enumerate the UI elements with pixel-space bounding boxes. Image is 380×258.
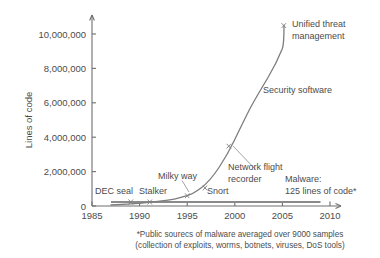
lines-of-code-chart: 0 2,000,000 4,000,000 6,000,000 8,000,00…: [0, 0, 380, 258]
annotation-dec-seal: DEC seal: [95, 186, 133, 196]
annotation-snort: Snort: [207, 186, 229, 196]
footnote-line-1: *Public sourecs of malware averaged over…: [137, 230, 344, 239]
y-axis-title: Lines of code: [23, 92, 34, 149]
annotation-malware-line2: 125 lines of code*: [285, 186, 357, 196]
x-tick-label-2010: 2010: [319, 210, 340, 221]
annotation-unified-threat-management-line1: Unified threat: [292, 19, 346, 29]
x-tick-label-2000: 2000: [224, 210, 245, 221]
annotation-milky-way: Milky way: [158, 171, 198, 181]
y-tick-label-8000000: 8,000,000: [44, 63, 86, 74]
y-tick-label-2000000: 2,000,000: [44, 166, 86, 177]
y-tick-label-10000000: 10,000,000: [38, 29, 86, 40]
x-tick-label-1990: 1990: [129, 210, 150, 221]
annotation-network-flight-recorder-line2: recorder: [228, 174, 262, 184]
y-tick-label-6000000: 6,000,000: [44, 97, 86, 108]
annotation-stalker: Stalker: [139, 186, 167, 196]
y-tick-label-4000000: 4,000,000: [44, 132, 86, 143]
footnote-line-2: (collection of exploits, worms, botnets,…: [135, 241, 345, 250]
annotation-malware-line1: Malware:: [285, 174, 322, 184]
annotation-security-software: Security software: [263, 85, 332, 95]
x-tick-label-1985: 1985: [81, 210, 102, 221]
x-tick-label-1995: 1995: [177, 210, 198, 221]
annotation-unified-threat-management-line2: management: [292, 31, 345, 41]
x-tick-label-2005: 2005: [272, 210, 293, 221]
annotation-network-flight-recorder-line1: Network flight: [228, 162, 283, 172]
